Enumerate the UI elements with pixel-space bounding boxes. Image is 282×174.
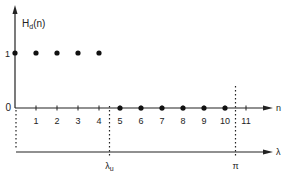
n-tick-label-3: 3 [75, 116, 80, 126]
n-tick-label-8: 8 [180, 116, 185, 126]
lambda-axis-label: λ [276, 147, 281, 157]
n-axis-label: n [276, 103, 281, 113]
lambda-markers: λuπ [105, 86, 238, 172]
y-axis-arrow-icon [13, 5, 18, 14]
data-point-n0 [12, 50, 17, 55]
y-tick-label-1: 1 [5, 49, 10, 59]
n-tick-label-6: 6 [138, 116, 143, 126]
data-point-n7 [159, 105, 164, 110]
n-tick-label-2: 2 [54, 116, 59, 126]
data-point-n2 [54, 50, 59, 55]
y-tick-label-0: 0 [5, 102, 11, 113]
data-points [12, 50, 227, 110]
data-point-n8 [180, 105, 185, 110]
n-tick-label-7: 7 [159, 116, 164, 126]
n-axis-tick-labels: 1234567891011 [33, 116, 250, 126]
n-axis-arrow-icon [263, 106, 273, 111]
data-point-n6 [138, 105, 143, 110]
lambda-marker-label-0: λu [105, 161, 114, 172]
n-tick-label-9: 9 [201, 116, 206, 126]
n-tick-label-1: 1 [33, 116, 38, 126]
data-point-n10 [222, 105, 227, 110]
data-point-n1 [33, 50, 38, 55]
n-tick-label-10: 10 [220, 116, 230, 126]
n-tick-label-11: 11 [241, 116, 250, 126]
n-tick-label-5: 5 [117, 116, 122, 126]
data-point-n4 [96, 50, 101, 55]
data-point-n5 [117, 105, 122, 110]
data-point-n9 [201, 105, 206, 110]
impulse-response-diagram: Hd(n) 1 0 n λ 1234567891011 λuπ [0, 0, 282, 174]
data-point-n3 [75, 50, 80, 55]
y-axis-label: Hd(n) [22, 18, 45, 30]
n-tick-label-4: 4 [96, 116, 101, 126]
lambda-marker-label-1: π [232, 161, 238, 171]
lambda-axis-arrow-icon [263, 150, 273, 155]
